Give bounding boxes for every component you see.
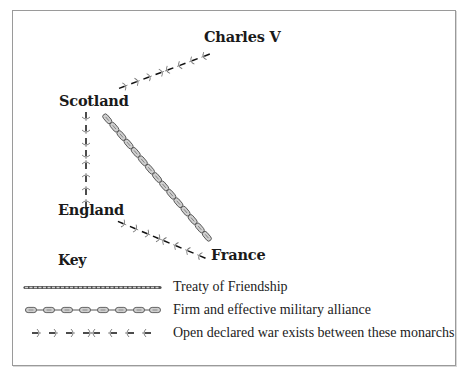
legend-symbol-alliance	[25, 307, 161, 312]
alliance-chain-scotland-france: CHAIN_END	[102, 113, 213, 242]
diagram-canvas: CHAIN_END	[0, 0, 461, 376]
legend-label-treaty: Treaty of Friendship	[173, 279, 288, 295]
node-scotland: Scotland	[59, 92, 129, 109]
node-england: England	[58, 201, 124, 218]
node-charles-v: Charles V	[204, 28, 281, 45]
war-line-scotland-england	[82, 112, 90, 208]
war-line-scotland-charles-v	[118, 50, 212, 92]
key-title: Key	[58, 252, 86, 268]
legend-symbol-war	[32, 329, 151, 337]
legend-label-alliance: Firm and effective military alliance	[173, 302, 371, 318]
legend-label-war: Open declared war exists between these m…	[173, 325, 454, 341]
node-france: France	[211, 246, 265, 263]
